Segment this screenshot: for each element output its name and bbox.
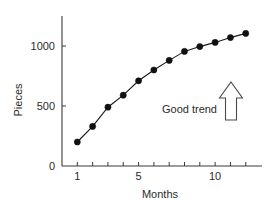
x-axis-ticks bbox=[77, 162, 245, 166]
y-tick-label: 1000 bbox=[31, 40, 55, 52]
data-point-marker bbox=[166, 57, 172, 63]
x-axis-title: Months bbox=[142, 188, 179, 200]
data-point-marker bbox=[135, 78, 141, 84]
up-arrow-outline-icon bbox=[220, 82, 243, 120]
good-trend-annotation: Good trend bbox=[162, 82, 243, 120]
data-point-markers bbox=[74, 30, 249, 145]
data-point-marker bbox=[197, 44, 203, 50]
good-trend-label: Good trend bbox=[162, 103, 217, 115]
data-series-line bbox=[77, 33, 245, 142]
data-point-marker bbox=[74, 139, 80, 145]
y-axis-tick-labels: 05001000 bbox=[31, 40, 55, 172]
data-point-marker bbox=[151, 67, 157, 73]
line-chart: 05001000 1510 Pieces Months Good trend bbox=[0, 0, 274, 208]
x-tick-label: 5 bbox=[136, 170, 142, 182]
data-point-marker bbox=[243, 30, 249, 36]
y-axis-ticks bbox=[62, 46, 66, 106]
data-point-marker bbox=[181, 48, 187, 54]
chart-container: 05001000 1510 Pieces Months Good trend bbox=[0, 0, 274, 208]
y-tick-label: 500 bbox=[37, 100, 55, 112]
data-point-marker bbox=[227, 35, 233, 41]
x-axis-tick-labels: 1510 bbox=[74, 170, 221, 182]
data-point-marker bbox=[120, 92, 126, 98]
data-point-marker bbox=[90, 123, 96, 129]
x-tick-label: 1 bbox=[74, 170, 80, 182]
data-point-marker bbox=[105, 104, 111, 110]
y-tick-label: 0 bbox=[49, 160, 55, 172]
data-point-marker bbox=[212, 39, 218, 45]
x-tick-label: 10 bbox=[209, 170, 221, 182]
y-axis-title: Pieces bbox=[12, 83, 24, 117]
